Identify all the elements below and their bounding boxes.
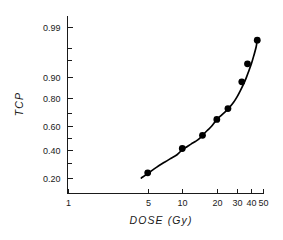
x-tick-label: 5 <box>146 198 151 208</box>
y-tick-label: 0.60 <box>43 122 61 132</box>
x-axis-title: DOSE (Gy) <box>130 214 193 226</box>
data-point <box>254 37 261 44</box>
data-point <box>179 145 186 152</box>
data-point <box>199 132 206 139</box>
data-point <box>144 169 151 176</box>
y-tick-label: 0.20 <box>43 174 61 184</box>
data-point <box>225 105 232 112</box>
y-tick-label: 0.80 <box>43 94 61 104</box>
tcp-dose-plot: 0.200.400.600.800.900.99 151020304050 TC… <box>0 0 283 240</box>
chart-figure: 0.200.400.600.800.900.99 151020304050 TC… <box>0 0 283 240</box>
y-tick-label: 0.40 <box>43 146 61 156</box>
x-tick-label: 40 <box>246 198 256 208</box>
data-point <box>238 78 245 85</box>
y-tick-label: 0.90 <box>43 73 61 83</box>
x-tick-label: 1 <box>66 198 71 208</box>
y-axis-title: TCP <box>13 92 25 116</box>
x-tick-label: 20 <box>212 198 222 208</box>
data-point <box>213 116 220 123</box>
x-tick-label: 10 <box>177 198 187 208</box>
y-tick-label: 0.99 <box>43 23 61 33</box>
data-point <box>244 60 251 67</box>
x-tick-label: 30 <box>232 198 242 208</box>
x-tick-label: 50 <box>258 198 268 208</box>
